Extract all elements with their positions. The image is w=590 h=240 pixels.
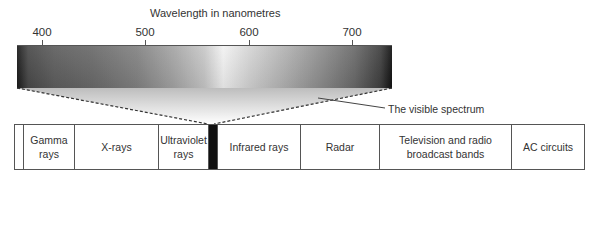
callout-leader-line [318,98,385,108]
band-visible-light [209,125,217,169]
cone-fill [17,88,392,124]
em-spectrum-bands: Gamma rays X-rays Ultraviolet rays Infra… [14,124,585,170]
band-gamma-rays: Gamma rays [24,125,75,169]
band-television-radio: Television and radio broadcast bands [380,125,512,169]
band-x-rays: X-rays [75,125,159,169]
band-infrared-rays: Infrared rays [217,125,301,169]
visible-spectrum-label: The visible spectrum [388,103,484,115]
band-radar: Radar [301,125,380,169]
band-edge [15,125,24,169]
band-ac-circuits: AC circuits [512,125,584,169]
band-ultraviolet-rays: Ultraviolet rays [159,125,209,169]
